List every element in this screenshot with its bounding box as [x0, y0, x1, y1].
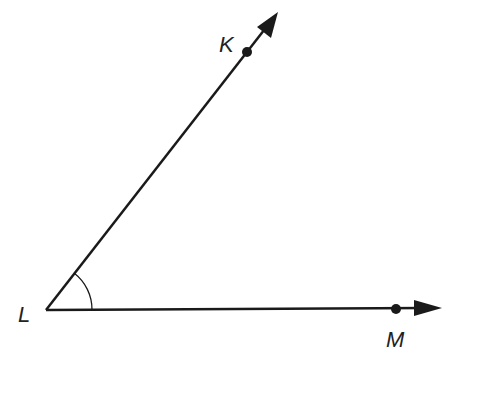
point-k — [242, 47, 252, 57]
label-m: M — [386, 327, 405, 352]
ray-lk — [46, 12, 278, 310]
angle-diagram: K L M — [0, 0, 480, 411]
point-m — [391, 304, 401, 314]
label-l: L — [18, 302, 30, 327]
arrowhead-m-icon — [414, 300, 442, 316]
ray-lm — [46, 300, 442, 316]
angle-arc — [74, 273, 92, 310]
label-k: K — [219, 32, 235, 57]
